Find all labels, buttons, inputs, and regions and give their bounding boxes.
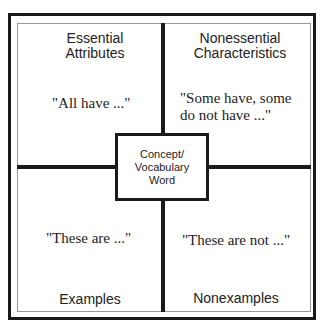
essential-attributes-prompt: "All have ..." [52,95,130,112]
heading-line: Characteristics [180,46,300,61]
center-line: Concept/ [140,148,184,161]
examples-heading: Examples [40,292,140,307]
prompt-line: "Some have, some [180,90,292,107]
examples-prompt: "These are ..." [46,230,131,247]
heading-line: Essential [40,31,150,46]
center-line: Vocabulary [135,161,189,174]
nonessential-characteristics-prompt: "Some have, some do not have ..." [180,90,292,124]
concept-word-box: Concept/ Vocabulary Word [115,133,209,201]
essential-attributes-heading: Essential Attributes [40,31,150,61]
center-line: Word [149,174,175,187]
heading-line: Nonessential [180,31,300,46]
prompt-line: do not have ..." [180,107,292,124]
nonexamples-prompt: "These are not ..." [182,232,290,249]
nonessential-characteristics-heading: Nonessential Characteristics [180,31,300,61]
nonexamples-heading: Nonexamples [186,291,286,306]
heading-line: Attributes [40,46,150,61]
